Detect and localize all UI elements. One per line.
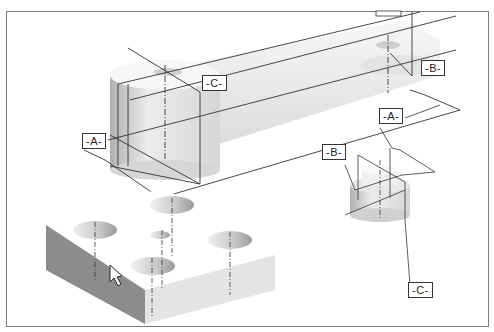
datum-label-a-large: -A-: [82, 133, 106, 149]
plate-with-holes: [46, 190, 275, 324]
partial-label-box: [376, 11, 401, 16]
datum-label-c-small: -C-: [408, 282, 433, 298]
connecting-link: [110, 20, 440, 180]
datum-label-a-small: -A-: [379, 108, 403, 124]
datum-label-b-small: -B-: [322, 144, 346, 160]
datum-label-c-large: -C-: [202, 75, 227, 91]
datum-label-b-large: -B-: [421, 60, 445, 76]
